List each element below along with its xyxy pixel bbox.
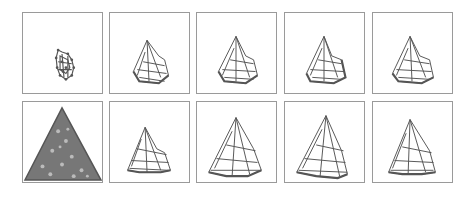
mesh-triangle-plot (110, 13, 189, 93)
panel-r2-c1 (22, 101, 103, 183)
panel-r1-c1 (22, 12, 103, 94)
mesh-triangle-plot (285, 13, 364, 93)
panel-r1-c4 (284, 12, 365, 94)
mesh-triangle-plot (197, 13, 276, 93)
dense-triangle-plot (23, 102, 102, 182)
mesh-blob-plot (23, 13, 102, 93)
panel-r1-c5 (372, 12, 453, 94)
panel-r2-c2 (109, 101, 190, 183)
panel-r1-c3 (196, 12, 277, 94)
mesh-triangle-plot (373, 102, 452, 182)
mesh-triangle-plot (285, 102, 364, 182)
mesh-triangle-plot (197, 102, 276, 182)
mesh-triangle-plot (373, 13, 452, 93)
panel-r2-c3 (196, 101, 277, 183)
panel-r2-c4 (284, 101, 365, 183)
mesh-triangle-plot (110, 102, 189, 182)
panel-r1-c2 (109, 12, 190, 94)
panel-r2-c5 (372, 101, 453, 183)
